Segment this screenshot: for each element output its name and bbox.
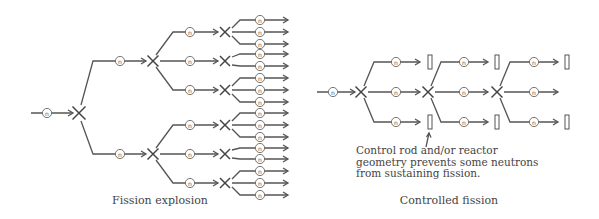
neutron-icon: n xyxy=(115,56,124,65)
neutron-icon: n xyxy=(459,57,468,66)
neutron-label: n xyxy=(532,119,536,126)
neutron-path xyxy=(81,121,146,154)
neutron-label: n xyxy=(188,122,192,129)
neutron-icon: n xyxy=(255,97,264,106)
neutron-icon: n xyxy=(255,39,264,48)
neutron-path xyxy=(431,98,488,122)
control-rod-icon xyxy=(495,55,499,69)
neutron-label: n xyxy=(258,192,262,199)
neutron-path xyxy=(500,98,558,122)
neutron-icon: n xyxy=(529,87,538,96)
neutron-path xyxy=(431,62,488,86)
control-rod-icon xyxy=(565,55,569,69)
controlled-fission-diagram: nnnnnnnnnn xyxy=(317,55,569,147)
neutron-label: n xyxy=(394,119,398,126)
annotation-line: geometry prevents some neutrons xyxy=(356,156,538,168)
neutron-label: n xyxy=(258,168,262,175)
neutron-icon: n xyxy=(255,15,264,24)
annotation-line: Control rod and/or reactor xyxy=(356,144,499,156)
fission-event-icon xyxy=(220,178,230,188)
control-rod-icon xyxy=(495,115,499,129)
neutron-label: n xyxy=(532,59,536,66)
control-rod-icon xyxy=(565,115,569,129)
neutron-label: n xyxy=(118,151,122,158)
fission-diagram-canvas: nnnnnnnnnnnnnnnnnnnnnnnnn nnnnnnnnnn Fis… xyxy=(0,0,599,219)
fission-event-icon xyxy=(148,56,159,67)
neutron-label: n xyxy=(258,63,262,70)
neutron-label: n xyxy=(188,151,192,158)
neutron-label: n xyxy=(258,51,262,58)
neutron-icon: n xyxy=(42,108,51,117)
neutron-label: n xyxy=(258,180,262,187)
neutron-path xyxy=(81,61,146,105)
neutron-icon: n xyxy=(255,108,264,117)
controlled-fission-caption: Controlled fission xyxy=(400,194,498,207)
neutron-icon: n xyxy=(255,73,264,82)
fission-event-icon xyxy=(356,87,367,98)
neutron-label: n xyxy=(258,122,262,129)
neutron-label: n xyxy=(394,89,398,96)
neutron-label: n xyxy=(258,29,262,36)
neutron-label: n xyxy=(258,156,262,163)
fission-event-icon xyxy=(220,85,230,95)
neutron-icon: n xyxy=(185,120,194,129)
neutron-icon: n xyxy=(185,56,194,65)
neutron-label: n xyxy=(45,110,49,117)
neutron-icon: n xyxy=(529,57,538,66)
neutron-label: n xyxy=(462,89,466,96)
neutron-icon: n xyxy=(255,61,264,70)
neutron-icon: n xyxy=(185,27,194,36)
fission-event-icon xyxy=(220,149,230,159)
fission-explosion-caption: Fission explosion xyxy=(112,194,208,207)
neutron-icon: n xyxy=(255,120,264,129)
neutron-label: n xyxy=(462,119,466,126)
neutron-path xyxy=(364,62,420,86)
neutron-label: n xyxy=(331,89,335,96)
neutron-icon: n xyxy=(255,190,264,199)
neutron-icon: n xyxy=(529,117,538,126)
neutron-icon: n xyxy=(459,87,468,96)
neutron-label: n xyxy=(258,41,262,48)
neutron-icon: n xyxy=(391,57,400,66)
neutron-icon: n xyxy=(185,178,194,187)
neutron-icon: n xyxy=(255,166,264,175)
fission-event-icon xyxy=(73,107,86,120)
fission-event-icon xyxy=(220,27,230,37)
neutron-label: n xyxy=(188,29,192,36)
neutron-icon: n xyxy=(255,27,264,36)
fission-explosion-diagram: nnnnnnnnnnnnnnnnnnnnnnnnn xyxy=(31,15,288,199)
annotation-line: from sustaining fission. xyxy=(356,167,480,179)
neutron-label: n xyxy=(188,58,192,65)
neutron-path xyxy=(500,62,558,86)
neutron-icon: n xyxy=(328,87,337,96)
neutron-icon: n xyxy=(255,85,264,94)
neutron-icon: n xyxy=(459,117,468,126)
neutron-label: n xyxy=(258,99,262,106)
neutron-label: n xyxy=(118,58,122,65)
control-rod-annotation: Control rod and/or reactor geometry prev… xyxy=(356,144,538,179)
neutron-icon: n xyxy=(391,87,400,96)
neutron-path xyxy=(364,98,420,122)
neutron-label: n xyxy=(258,134,262,141)
neutron-icon: n xyxy=(115,149,124,158)
neutron-icon: n xyxy=(255,143,264,152)
neutron-label: n xyxy=(462,59,466,66)
fission-event-icon xyxy=(220,56,230,66)
fission-event-icon xyxy=(492,87,503,98)
neutron-icon: n xyxy=(255,132,264,141)
fission-event-icon xyxy=(220,120,230,130)
neutron-icon: n xyxy=(391,117,400,126)
control-rod-icon xyxy=(428,55,432,69)
neutron-label: n xyxy=(532,89,536,96)
neutron-icon: n xyxy=(255,49,264,58)
neutron-label: n xyxy=(258,87,262,94)
neutron-label: n xyxy=(188,180,192,187)
neutron-icon: n xyxy=(255,154,264,163)
neutron-label: n xyxy=(188,87,192,94)
neutron-icon: n xyxy=(185,85,194,94)
control-rod-icon xyxy=(428,115,432,129)
neutron-label: n xyxy=(258,110,262,117)
neutron-label: n xyxy=(258,75,262,82)
fission-event-icon xyxy=(148,149,159,160)
neutron-icon: n xyxy=(185,149,194,158)
